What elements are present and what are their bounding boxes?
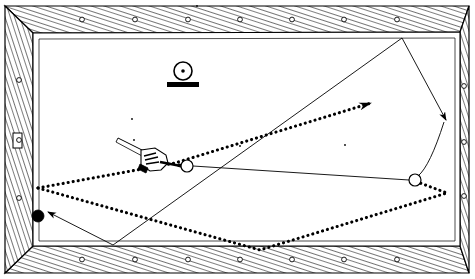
- sight-marker-top: [342, 17, 347, 22]
- sight-marker-bottom: [290, 257, 295, 262]
- ball-cue-ball: [181, 160, 193, 172]
- sight-marker-top: [80, 17, 85, 22]
- sight-marker-top: [186, 17, 191, 22]
- sight-marker-left: [17, 138, 22, 143]
- sight-marker-right: [462, 140, 467, 145]
- stray-dot: [239, 145, 241, 147]
- sight-marker-left: [17, 196, 22, 201]
- sight-marker-bottom: [133, 257, 138, 262]
- sight-marker-top: [238, 17, 243, 22]
- sight-marker-right: [462, 194, 467, 199]
- sight-marker-bottom: [186, 257, 191, 262]
- sight-marker-top: [133, 17, 138, 22]
- sight-marker-left: [17, 78, 22, 83]
- stray-dot: [344, 144, 346, 146]
- table-frame: [5, 6, 469, 273]
- sight-marker-bottom: [80, 257, 85, 262]
- sight-marker-top: [290, 17, 295, 22]
- sight-marker-right: [462, 84, 467, 89]
- sight-marker-bottom: [342, 257, 347, 262]
- ball-object-ball-right: [409, 174, 421, 186]
- cloth-surface: [33, 32, 460, 246]
- billiard-diagram: [0, 0, 475, 279]
- sight-marker-bottom: [238, 257, 243, 262]
- spot-marker-base: [167, 82, 199, 87]
- stray-dot: [196, 5, 198, 7]
- ball-target-ball-black: [32, 210, 44, 222]
- spot-marker-center-dot: [181, 69, 185, 73]
- stray-dot: [131, 118, 133, 120]
- stray-dot: [133, 139, 135, 141]
- sight-marker-top: [395, 17, 400, 22]
- sight-marker-bottom: [395, 257, 400, 262]
- diagram-canvas: [0, 0, 475, 279]
